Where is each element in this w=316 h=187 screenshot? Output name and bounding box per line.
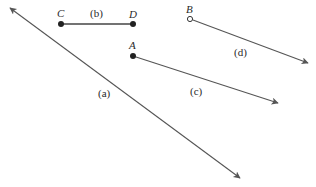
ray-arrow-icon: [133, 56, 278, 103]
point-b-label: B: [186, 3, 193, 15]
figure-c-label: (c): [190, 85, 203, 98]
point-d-label: D: [128, 8, 137, 20]
figure-a-line: (a): [10, 8, 240, 178]
point-b-open-circle-icon: [187, 16, 192, 21]
figure-b-label: (b): [90, 7, 103, 20]
point-c-label: C: [57, 7, 65, 19]
figure-b-segment: C D (b): [57, 7, 137, 27]
double-arrow-line-icon: [10, 8, 240, 178]
figure-d-label: (d): [234, 46, 247, 59]
point-d-dot-icon: [130, 21, 136, 27]
figure-a-label: (a): [98, 87, 111, 100]
figure-d-ray: B (d): [186, 3, 308, 63]
point-a-label: A: [128, 39, 136, 51]
point-a-dot-icon: [130, 53, 136, 59]
ray-arrow-icon: [193, 20, 308, 63]
geometry-diagram: (a) C D (b) A (c) B (d): [0, 0, 316, 187]
figure-c-ray: A (c): [128, 39, 278, 103]
point-c-dot-icon: [58, 21, 64, 27]
